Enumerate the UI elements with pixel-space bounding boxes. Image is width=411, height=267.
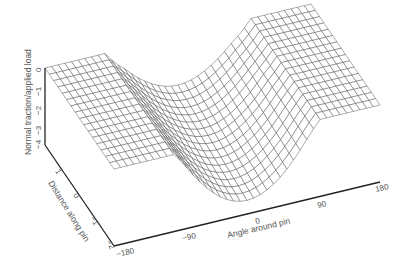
distance-tick: 0 [71, 192, 81, 201]
z-tick: −2 [34, 105, 43, 115]
distance-axis-label: Distance along pin [46, 179, 92, 244]
z-tick: −4 [34, 139, 43, 149]
angle-tick: 90 [316, 199, 327, 210]
angle-tick: −180 [115, 246, 135, 259]
z-tick: −1 [34, 86, 43, 96]
distance-tick: 1 [53, 168, 63, 177]
z-ticks: 0 −1 −2 −3 −4 [34, 67, 43, 149]
z-tick: −3 [34, 125, 43, 135]
surface-mesh [45, 4, 380, 201]
angle-tick: 180 [374, 182, 390, 194]
z-axis-label: Normal traction/applied load [23, 49, 33, 155]
distance-tick: −1 [88, 215, 101, 228]
angle-tick: −90 [181, 231, 197, 243]
surface-plot: 0 −1 −2 −3 −4 Normal traction/applied lo… [0, 0, 411, 267]
z-tick: 0 [34, 67, 43, 72]
